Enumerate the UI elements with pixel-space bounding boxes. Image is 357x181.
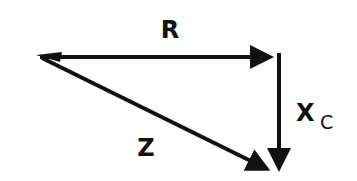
label-x: X <box>296 99 315 127</box>
label-z: Z <box>137 134 154 162</box>
impedance-triangle-diagram: R X C Z <box>0 0 357 181</box>
label-r: R <box>161 16 179 44</box>
label-c-subscript: C <box>320 111 333 133</box>
